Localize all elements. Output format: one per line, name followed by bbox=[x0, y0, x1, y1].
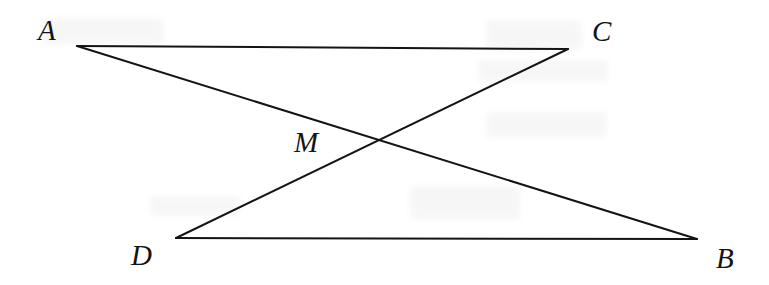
vertex-label-d: D bbox=[131, 241, 152, 270]
figure-line-drawing bbox=[0, 0, 769, 285]
vertex-label-c: C bbox=[592, 17, 611, 46]
segment-dc bbox=[176, 49, 568, 238]
vertex-label-b: B bbox=[716, 244, 734, 273]
segment-ac bbox=[77, 46, 568, 49]
vertex-label-a: A bbox=[38, 16, 56, 45]
segment-layer bbox=[77, 46, 697, 239]
geometry-figure: ACMDB bbox=[0, 0, 769, 285]
vertex-label-m: M bbox=[294, 128, 318, 157]
segment-ab bbox=[77, 46, 697, 239]
segment-db bbox=[176, 238, 697, 239]
